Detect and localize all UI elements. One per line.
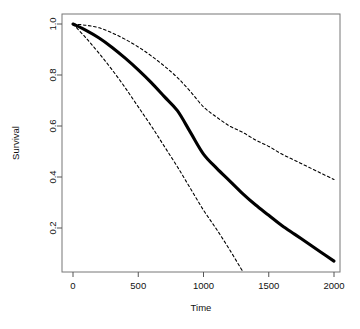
y-tick-label: 1.0 [47,17,58,30]
x-tick-label: 2000 [323,280,344,291]
x-tick-label: 1500 [258,280,279,291]
y-axis-title: Survival [10,126,21,160]
x-axis-title: Time [191,302,212,313]
y-tick-label: 0.8 [47,68,58,81]
y-tick-label: 0.2 [47,221,58,234]
chart-svg: 0500100015002000 0.20.40.60.81.0 Time Su… [0,0,360,329]
x-tick-label: 1000 [193,280,214,291]
plot-background [0,0,360,329]
y-tick-label: 0.4 [47,170,58,183]
y-tick-label: 0.6 [47,119,58,132]
survival-plot: 0500100015002000 0.20.40.60.81.0 Time Su… [0,0,360,329]
x-tick-label: 500 [130,280,146,291]
x-tick-label: 0 [70,280,75,291]
